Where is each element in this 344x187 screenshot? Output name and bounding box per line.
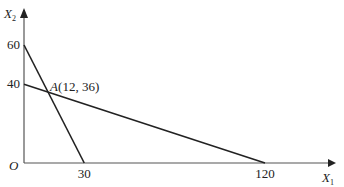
constraint-line-1 <box>24 45 84 163</box>
y-tick-label: 40 <box>7 76 20 91</box>
origin-label: O <box>9 158 19 173</box>
point-label: A(12, 36) <box>49 79 99 94</box>
y-axis-label: X2 <box>3 6 16 23</box>
x-axis-label: X1 <box>321 170 334 187</box>
x-tick-label: 30 <box>78 166 91 181</box>
y-tick-label: 60 <box>7 37 20 52</box>
constraint-line-2 <box>24 84 265 163</box>
x-tick-label: 120 <box>255 166 275 181</box>
diagram: X2 X1 O 301204060 A(12, 36) <box>0 0 344 187</box>
